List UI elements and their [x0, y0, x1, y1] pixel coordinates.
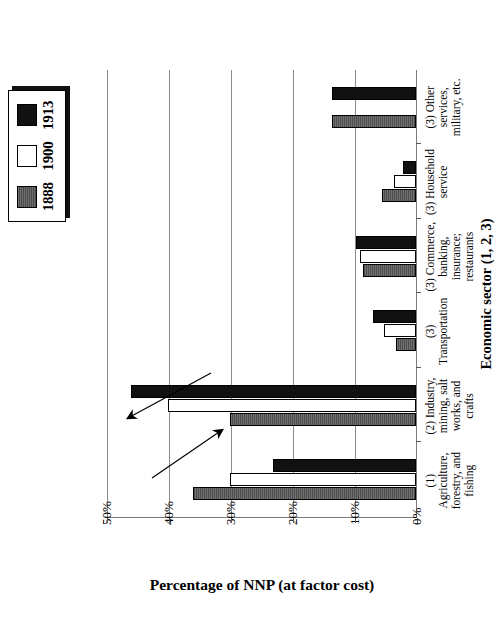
bar-group-4 [107, 219, 416, 294]
bar-1888-cat5 [382, 189, 416, 202]
x-axis-title: Economic sector (1, 2, 3) [478, 70, 495, 518]
bar-1900-cat5 [394, 175, 416, 188]
bar-1888-cat1 [193, 487, 416, 500]
bar-group-2 [107, 368, 416, 443]
bar-1888-cat3 [396, 338, 416, 351]
bar-1900-cat3 [384, 324, 416, 337]
bar-group-1 [107, 443, 416, 518]
bar-group-3 [107, 294, 416, 369]
legend-item-1888: 1888 [17, 182, 57, 211]
legend-swatch-1913 [17, 104, 37, 126]
bar-group-6 [107, 70, 416, 145]
chart-legend: 1888 1900 1913 [8, 90, 66, 222]
bar-1888-cat4 [363, 264, 416, 277]
y-axis-title: Percentage of NNP (at factor cost) [107, 576, 417, 594]
bar-1913-cat1 [273, 459, 416, 472]
y-tick-mark-20% [293, 518, 294, 523]
bar-1913-cat2 [131, 385, 416, 398]
bar-1888-cat2 [230, 413, 416, 426]
legend-label-1900: 1900 [40, 141, 57, 170]
legend-swatch-1900 [17, 145, 37, 167]
x-category-label-6: (3) Other services, military, etc. [424, 70, 476, 145]
legend-item-1913: 1913 [17, 101, 57, 130]
plot-area [107, 70, 417, 518]
legend-label-1888: 1888 [40, 182, 57, 211]
bar-1888-cat6 [332, 115, 416, 128]
y-tick-mark-50% [107, 518, 108, 523]
legend-swatch-1888 [17, 186, 37, 208]
y-tick-mark-0% [417, 518, 418, 523]
x-axis-category-labels: (1) Agriculture, forestry, and fishing(2… [424, 70, 476, 518]
bar-1900-cat4 [360, 250, 416, 263]
y-axis-title-wrap: Percentage of NNP (at factor cost) [107, 576, 417, 596]
bar-1913-cat4 [356, 236, 416, 249]
bar-1913-cat5 [403, 161, 416, 174]
y-tick-mark-40% [169, 518, 170, 523]
x-category-label-1: (1) Agriculture, forestry, and fishing [424, 443, 476, 518]
bar-groups [107, 70, 416, 517]
x-category-label-5: (3) Household service [424, 145, 476, 220]
y-tick-mark-30% [231, 518, 232, 523]
x-category-label-4: (3) Commerce, banking, insurance; restau… [424, 219, 476, 294]
legend-label-1913: 1913 [40, 101, 57, 130]
bar-1900-cat2 [168, 399, 416, 412]
bar-1900-cat1 [230, 473, 416, 486]
y-tick-mark-10% [355, 518, 356, 523]
bar-1913-cat6 [332, 87, 416, 100]
bar-1913-cat3 [373, 310, 416, 323]
x-category-label-3: (3) Transportation [424, 294, 476, 369]
legend-item-1900: 1900 [17, 141, 57, 170]
x-category-label-2: (2) Industry, mining, salt works, and cr… [424, 369, 476, 444]
bar-group-5 [107, 145, 416, 220]
